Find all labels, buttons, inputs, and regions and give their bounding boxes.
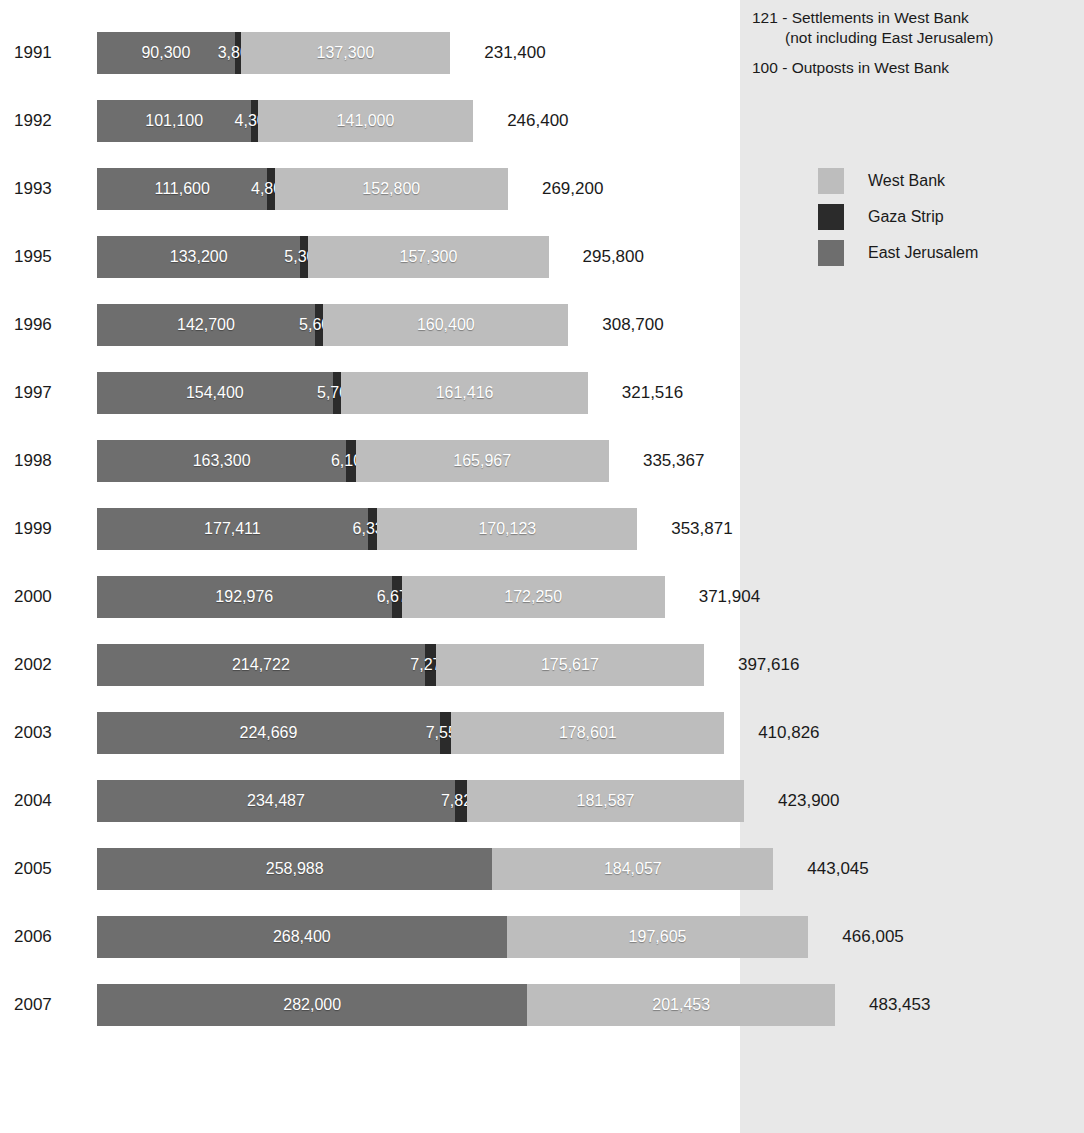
bar-row: 1992101,1004,300141,000246,400: [0, 100, 1084, 142]
bar-row: 2000192,9766,678172,250371,904: [0, 576, 1084, 618]
bar-segment-value-west-bank: 141,000: [337, 100, 395, 142]
bar-segment-west-bank: 175,617: [436, 644, 704, 686]
bar-segment-gaza-strip: 6,100: [346, 440, 355, 482]
year-label: 1995: [14, 236, 84, 278]
legend-item-west_bank: West Bank: [818, 163, 978, 199]
stacked-bar: 192,9766,678172,250: [97, 576, 665, 618]
bar-segment-value-east-jerusalem: 111,600: [154, 168, 209, 210]
bar-segment-value-east-jerusalem: 101,100: [145, 100, 203, 142]
bar-total-label: 335,367: [643, 440, 704, 482]
year-label: 2005: [14, 848, 84, 890]
bar-total-label: 231,400: [484, 32, 545, 74]
bar-segment-west-bank: 184,057: [492, 848, 773, 890]
bar-row: 2002214,7227,277175,617397,616: [0, 644, 1084, 686]
year-label: 2004: [14, 780, 84, 822]
bar-segment-gaza-strip: 7,556: [440, 712, 452, 754]
bar-segment-value-west-bank: 201,453: [652, 984, 710, 1026]
bar-total-label: 443,045: [807, 848, 868, 890]
bar-segment-value-west-bank: 160,400: [417, 304, 475, 346]
bar-segment-west-bank: 170,123: [377, 508, 637, 550]
year-label: 2007: [14, 984, 84, 1026]
bar-total-label: 308,700: [602, 304, 663, 346]
stacked-bar: 214,7227,277175,617: [97, 644, 704, 686]
bar-row: 2003224,6697,556178,601410,826: [0, 712, 1084, 754]
bar-segment-east-jerusalem: 154,400: [97, 372, 333, 414]
bar-segment-value-east-jerusalem: 258,988: [266, 848, 324, 890]
stacked-bar: 224,6697,556178,601: [97, 712, 724, 754]
bar-row: 1996142,7005,600160,400308,700: [0, 304, 1084, 346]
bar-segment-value-west-bank: 152,800: [362, 168, 420, 210]
bar-segment-west-bank: 157,300: [308, 236, 548, 278]
bar-row: 1998163,3006,100165,967335,367: [0, 440, 1084, 482]
stacked-bar: 133,2005,300157,300: [97, 236, 549, 278]
bar-segment-value-east-jerusalem: 90,300: [141, 32, 190, 74]
bar-segment-west-bank: 160,400: [323, 304, 568, 346]
stacked-bar: 154,4005,700161,416: [97, 372, 588, 414]
bar-segment-west-bank: 181,587: [467, 780, 744, 822]
note-outposts: 100 - Outposts in West Bank: [752, 58, 1082, 78]
bar-total-label: 353,871: [671, 508, 732, 550]
year-label: 2003: [14, 712, 84, 754]
year-label: 1999: [14, 508, 84, 550]
legend-item-east_jerusalem: East Jerusalem: [818, 235, 978, 271]
year-label: 1992: [14, 100, 84, 142]
year-label: 1998: [14, 440, 84, 482]
bar-segment-west-bank: 152,800: [275, 168, 508, 210]
bar-segment-east-jerusalem: 258,988: [97, 848, 492, 890]
bar-segment-value-east-jerusalem: 163,300: [193, 440, 251, 482]
bar-segment-value-east-jerusalem: 142,700: [177, 304, 235, 346]
bar-segment-east-jerusalem: 282,000: [97, 984, 527, 1026]
bar-total-label: 246,400: [507, 100, 568, 142]
bar-segment-east-jerusalem: 224,669: [97, 712, 440, 754]
year-label: 2002: [14, 644, 84, 686]
bar-total-label: 423,900: [778, 780, 839, 822]
bar-segment-value-east-jerusalem: 214,722: [232, 644, 290, 686]
bar-segment-west-bank: 165,967: [356, 440, 609, 482]
stacked-bar: 268,400197,605: [97, 916, 808, 958]
bar-total-label: 410,826: [758, 712, 819, 754]
bar-row: 2005258,988184,057443,045: [0, 848, 1084, 890]
bar-segment-gaza-strip: 6,678: [392, 576, 402, 618]
bar-segment-value-west-bank: 172,250: [504, 576, 562, 618]
bar-segment-east-jerusalem: 234,487: [97, 780, 455, 822]
bar-segment-value-east-jerusalem: 177,411: [204, 508, 261, 550]
bar-total-label: 269,200: [542, 168, 603, 210]
bar-row: 2007282,000201,453483,453: [0, 984, 1084, 1026]
bar-segment-gaza-strip: 5,300: [300, 236, 308, 278]
bar-total-label: 371,904: [699, 576, 760, 618]
year-label: 1996: [14, 304, 84, 346]
chart-notes: 121 - Settlements in West Bank (not incl…: [752, 8, 1082, 78]
bar-segment-west-bank: 141,000: [258, 100, 473, 142]
bar-segment-value-west-bank: 170,123: [478, 508, 536, 550]
legend-swatch-east_jerusalem: [818, 240, 844, 266]
bar-segment-value-west-bank: 175,617: [541, 644, 599, 686]
note-settlements-line2: (not including East Jerusalem): [752, 28, 1082, 48]
chart-legend: West BankGaza StripEast Jerusalem: [818, 163, 978, 271]
bar-segment-value-east-jerusalem: 154,400: [186, 372, 244, 414]
bar-segment-value-east-jerusalem: 234,487: [247, 780, 305, 822]
bar-segment-east-jerusalem: 268,400: [97, 916, 507, 958]
year-label: 1997: [14, 372, 84, 414]
bar-segment-value-east-jerusalem: 224,669: [240, 712, 298, 754]
stacked-bar: 142,7005,600160,400: [97, 304, 568, 346]
bar-segment-east-jerusalem: 142,700: [97, 304, 315, 346]
bar-segment-value-west-bank: 184,057: [604, 848, 662, 890]
bar-segment-east-jerusalem: 90,300: [97, 32, 235, 74]
bar-segment-west-bank: 161,416: [341, 372, 587, 414]
stacked-bar: 282,000201,453: [97, 984, 835, 1026]
bar-row: 1997154,4005,700161,416321,516: [0, 372, 1084, 414]
bar-segment-value-west-bank: 161,416: [436, 372, 494, 414]
stacked-bar: 90,3003,800137,300: [97, 32, 450, 74]
stacked-bar: 111,6004,800152,800: [97, 168, 508, 210]
bar-segment-value-east-jerusalem: 268,400: [273, 916, 331, 958]
year-label: 1991: [14, 32, 84, 74]
legend-label-gaza_strip: Gaza Strip: [868, 208, 944, 226]
stacked-bar: 163,3006,100165,967: [97, 440, 609, 482]
bar-segment-value-west-bank: 178,601: [559, 712, 617, 754]
bar-segment-west-bank: 137,300: [241, 32, 451, 74]
bar-total-label: 295,800: [583, 236, 644, 278]
bar-segment-gaza-strip: 5,600: [315, 304, 324, 346]
note-settlements-line1: 121 - Settlements in West Bank: [752, 8, 1082, 28]
bar-segment-gaza-strip: 7,277: [425, 644, 436, 686]
bar-segment-east-jerusalem: 177,411: [97, 508, 368, 550]
